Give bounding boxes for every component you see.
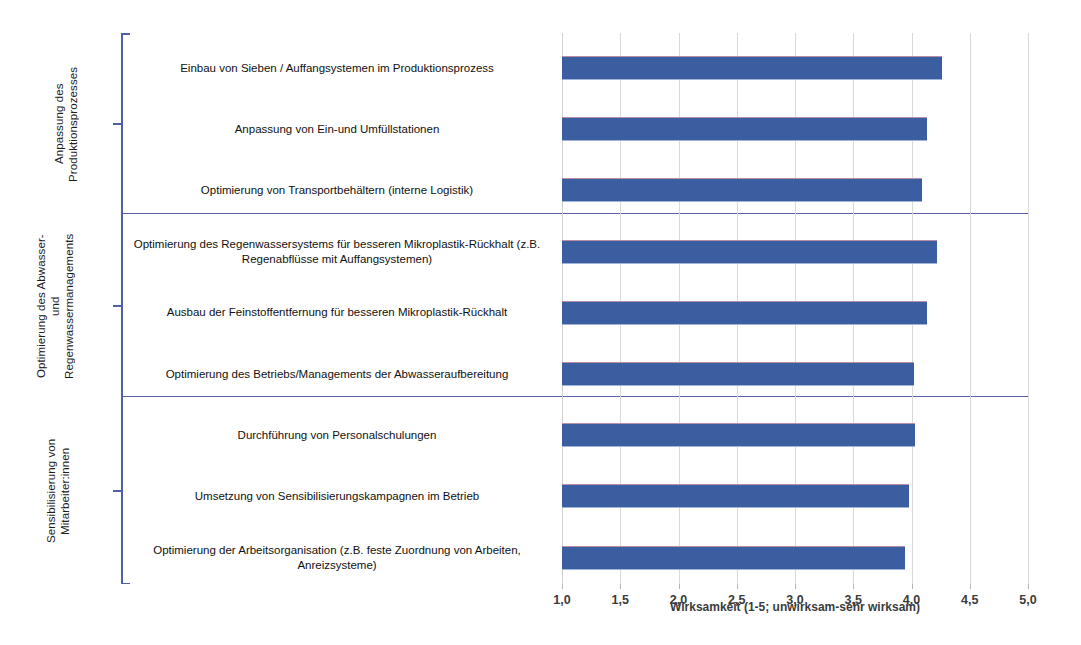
bar <box>562 117 927 141</box>
bar <box>562 178 922 202</box>
bar <box>562 56 942 80</box>
group-label-sensibilisierung: Sensibilisierung von Mitarbeiter:innen <box>44 400 86 582</box>
bar <box>562 362 914 386</box>
x-tick-1,5 <box>620 584 621 589</box>
plot-area: 1,01,52,02,53,03,54,04,55,0Einbau von Si… <box>562 33 1028 584</box>
group-tick-0 <box>113 123 122 125</box>
bar <box>562 484 909 508</box>
x-tick-3,0 <box>795 584 796 589</box>
gridline-4,5 <box>970 33 971 584</box>
x-tick-3,5 <box>853 584 854 589</box>
x-tick-5,0 <box>1028 584 1029 589</box>
group-label-abwassermanagement: Optimierung des Abwasser- und Regenwasse… <box>34 216 86 396</box>
bar <box>562 546 905 570</box>
horizontal-bar-chart: Anpassung des Produktionsprozesses Optim… <box>0 0 1081 645</box>
bar-category-label: Ausbau der Feinstoffentfernung für besse… <box>122 305 552 320</box>
x-tick-4,5 <box>970 584 971 589</box>
x-tick-2,0 <box>679 584 680 589</box>
bar-category-label: Anpassung von Ein-und Umfüllstationen <box>122 122 552 137</box>
x-tick-4,0 <box>912 584 913 589</box>
gridline-5,0 <box>1028 33 1029 584</box>
bar-category-label: Umsetzung von Sensibilisierungskampagnen… <box>122 489 552 504</box>
x-tick-1,0 <box>562 584 563 589</box>
bar-category-label: Optimierung der Arbeitsorganisation (z.B… <box>122 543 552 573</box>
bar <box>562 423 915 447</box>
group-tick-2 <box>113 490 122 492</box>
axis-cap-top <box>121 33 130 35</box>
x-axis-title: Wirksamkeit (1-5; unwirksam-sehr wirksam… <box>562 600 1028 614</box>
bar-category-label: Optimierung des Regenwassersystems für b… <box>122 237 552 267</box>
axis-cap-bottom <box>121 583 130 585</box>
bar-category-label: Durchführung von Personalschulungen <box>122 428 552 443</box>
bar-category-label: Einbau von Sieben / Auffangsystemen im P… <box>122 61 552 76</box>
bar <box>562 240 937 264</box>
bar <box>562 301 927 325</box>
bar-category-label: Optimierung des Betriebs/Managements der… <box>122 367 552 382</box>
x-tick-2,5 <box>737 584 738 589</box>
bar-category-label: Optimierung von Transportbehältern (inte… <box>122 183 552 198</box>
group-tick-1 <box>113 305 122 307</box>
group-label-produktionsprozess: Anpassung des Produktionsprozesses <box>52 35 86 213</box>
